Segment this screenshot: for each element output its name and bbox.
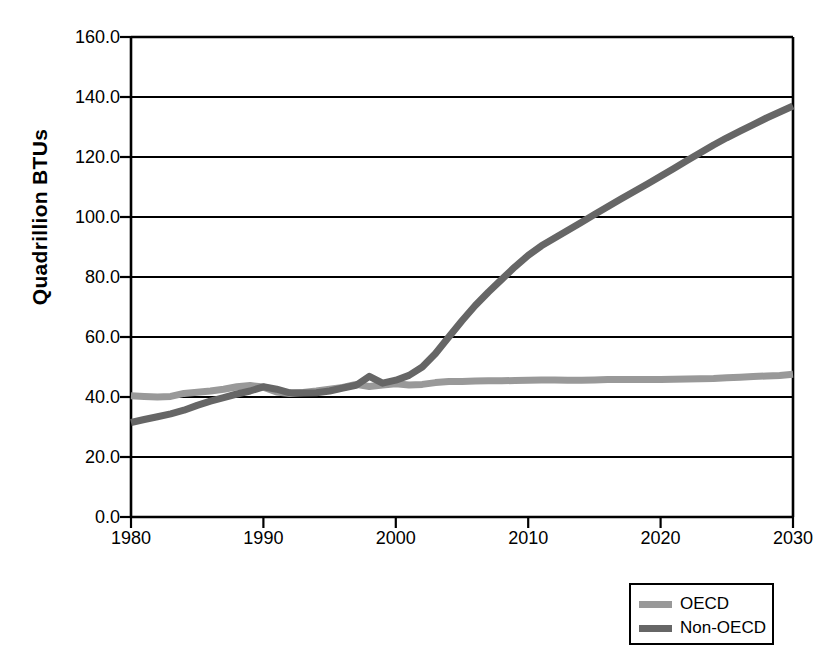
gridlines <box>131 37 793 517</box>
legend-swatch-icon <box>639 601 672 608</box>
data-series <box>131 106 793 423</box>
legend-swatch-icon <box>639 625 672 632</box>
legend-label: Non-OECD <box>680 618 766 638</box>
legend-label: OECD <box>680 594 729 614</box>
series-line-non-oecd <box>131 106 793 423</box>
legend-item: OECD <box>639 592 764 616</box>
legend-item: Non-OECD <box>639 616 764 640</box>
legend: OECDNon-OECD <box>629 583 774 645</box>
axis-ticks <box>120 37 793 528</box>
